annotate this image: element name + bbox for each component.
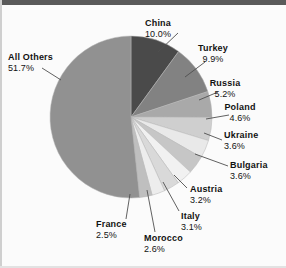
label-russia: Russia 5.2% — [185, 78, 265, 100]
label-italy: Italy 3.1% — [181, 211, 231, 233]
label-all-others-pct: 51.7% — [8, 63, 82, 74]
label-austria-pct: 3.2% — [190, 195, 250, 206]
label-china: China 10.0% — [118, 18, 198, 40]
label-italy-pct: 3.1% — [181, 222, 231, 233]
label-turkey: Turkey 9.9% — [170, 43, 256, 65]
label-bulgaria-pct: 3.6% — [230, 171, 286, 182]
label-russia-pct: 5.2% — [185, 89, 265, 100]
label-ukraine: Ukraine 3.6% — [224, 130, 284, 152]
label-all-others-name: All Others — [8, 52, 82, 63]
leader-line-bulgaria — [195, 154, 228, 166]
label-bulgaria: Bulgaria 3.6% — [230, 160, 286, 182]
label-turkey-name: Turkey — [170, 43, 256, 54]
label-china-name: China — [118, 18, 198, 29]
label-france-pct: 2.5% — [96, 230, 156, 241]
label-poland: Poland 4.6% — [200, 102, 280, 124]
label-all-others: All Others 51.7% — [8, 52, 82, 74]
label-france: France 2.5% — [96, 219, 156, 241]
label-bulgaria-name: Bulgaria — [230, 160, 286, 171]
label-poland-name: Poland — [200, 102, 280, 113]
label-turkey-pct: 9.9% — [170, 54, 256, 65]
label-ukraine-pct: 3.6% — [224, 141, 284, 152]
label-poland-pct: 4.6% — [200, 113, 280, 124]
label-russia-name: Russia — [185, 78, 265, 89]
label-morocco-pct: 2.6% — [144, 244, 210, 255]
label-ukraine-name: Ukraine — [224, 130, 284, 141]
pie-chart-page: China 10.0% Turkey 9.9% Russia 5.2% Pola… — [0, 0, 286, 268]
label-france-name: France — [96, 219, 156, 230]
label-austria: Austria 3.2% — [190, 184, 250, 206]
label-italy-name: Italy — [181, 211, 231, 222]
label-austria-name: Austria — [190, 184, 250, 195]
label-china-pct: 10.0% — [118, 29, 198, 40]
